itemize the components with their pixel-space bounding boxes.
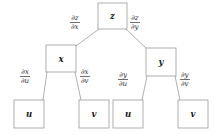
node-z-label: z	[109, 11, 115, 21]
node-x-label: x	[57, 54, 64, 64]
chain-rule-tree-diagram: z x y u v u v	[0, 0, 215, 135]
edge-x-to-u1	[43, 72, 47, 100]
node-v-right[interactable]: v	[178, 100, 208, 128]
node-z[interactable]: z	[98, 3, 127, 29]
edge-label-dx-dv-denominator: ∂v	[80, 77, 90, 84]
node-group: z x y u v u v	[14, 3, 208, 128]
edge-label-dy-dv-denominator: ∂v	[180, 80, 190, 87]
node-u-left-label: u	[26, 109, 32, 119]
edge-label-dz-dy-denominator: ∂y	[130, 23, 140, 30]
node-x[interactable]: x	[46, 45, 76, 72]
edge-y-to-u2	[142, 76, 147, 100]
node-y[interactable]: y	[146, 48, 176, 76]
edge-label-dy-du: ∂y ∂u	[118, 72, 128, 88]
edge-label-dz-dy: ∂z ∂y	[130, 15, 140, 31]
edge-label-dx-du-denominator: ∂u	[20, 77, 30, 84]
node-u-right[interactable]: u	[113, 100, 143, 128]
edge-label-dy-dv: ∂y ∂v	[180, 72, 190, 88]
tree-diagram-canvas: z x y u v u v	[0, 0, 215, 135]
edge-z-to-x	[76, 29, 99, 46]
edge-z-to-y	[126, 29, 147, 49]
node-u-left[interactable]: u	[14, 100, 44, 128]
node-u-right-label: u	[125, 109, 131, 119]
edge-label-dy-du-denominator: ∂u	[118, 80, 128, 87]
edge-label-dz-dx: ∂z ∂x	[70, 15, 80, 31]
node-v-left[interactable]: v	[79, 100, 109, 128]
node-y-label: y	[158, 57, 165, 67]
edge-label-dz-dx-denominator: ∂x	[70, 23, 80, 30]
edge-label-dx-du: ∂x ∂u	[20, 69, 30, 85]
edge-label-dx-dv: ∂x ∂v	[80, 69, 90, 85]
